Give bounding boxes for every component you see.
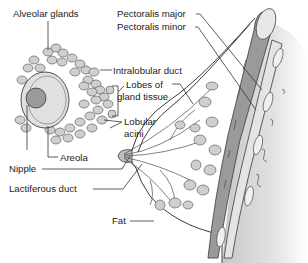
- side-view-ducts: [124, 90, 210, 205]
- breast-anatomy-diagram: Alveolar glands Pectoralis major Pectora…: [0, 0, 308, 263]
- label-lobes-line2: gland tissue: [117, 91, 168, 102]
- nipple-front: [26, 88, 46, 108]
- label-fat: Fat: [112, 215, 126, 226]
- leader-lobes-right: [172, 84, 193, 104]
- label-nipple: Nipple: [9, 163, 36, 174]
- label-lactiferous-duct: Lactiferous duct: [9, 183, 77, 194]
- label-lobular-line1: Lobular: [124, 116, 157, 127]
- label-pectoralis-minor: Pectoralis minor: [117, 21, 187, 32]
- label-areola: Areola: [60, 152, 88, 163]
- label-alveolar-glands: Alveolar glands: [13, 8, 79, 19]
- label-lobular-line2: acini: [124, 128, 144, 139]
- leader-lactiferous-duct: [93, 164, 142, 189]
- label-pectoralis-major: Pectoralis major: [117, 8, 187, 19]
- label-lobes-line1: Lobes of: [126, 79, 163, 90]
- label-intralobular-duct: Intralobular duct: [113, 65, 182, 76]
